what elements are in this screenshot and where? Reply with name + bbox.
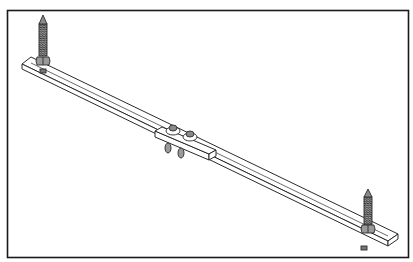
technical-illustration xyxy=(0,0,413,262)
